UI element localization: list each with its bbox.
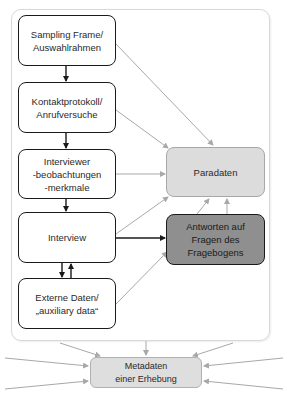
contact-protocol-box: Kontaktprotokoll/ Anrufversuche: [18, 82, 116, 133]
box-label: Fragen des: [186, 233, 245, 246]
box-label: Interview: [48, 231, 86, 244]
box-label: -beobachtungen: [33, 168, 102, 181]
box-label: Auswahlrahmen: [31, 41, 103, 54]
box-label: Metadaten: [115, 360, 177, 373]
box-label: -merkmale: [33, 181, 102, 194]
box-label: Externe Daten/: [35, 291, 98, 304]
box-label: Antworten auf: [186, 220, 245, 233]
box-label: Interviewer: [33, 155, 102, 168]
box-label: Fragebogens: [186, 246, 245, 259]
box-label: Anrufversuche: [32, 108, 103, 121]
paradata-box: Paradaten: [166, 147, 265, 197]
box-label: Kontaktprotokoll/: [32, 95, 103, 108]
box-label: Paradaten: [194, 166, 238, 179]
metadata-box: Metadaten einer Erhebung: [90, 357, 202, 388]
box-label: Sampling Frame/: [31, 28, 103, 41]
external-data-box: Externe Daten/ „auxiliary data“: [18, 278, 116, 329]
box-label: einer Erhebung: [115, 373, 177, 386]
interviewer-box: Interviewer -beobachtungen -merkmale: [18, 149, 116, 199]
sampling-frame-box: Sampling Frame/ Auswahlrahmen: [18, 15, 116, 66]
box-label: „auxiliary data“: [35, 304, 98, 317]
answers-box: Antworten auf Fragen des Fragebogens: [166, 214, 265, 265]
interview-box: Interview: [18, 212, 116, 263]
